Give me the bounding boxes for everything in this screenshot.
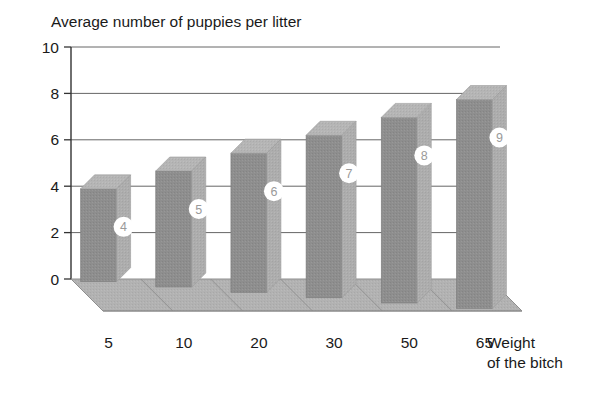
bar-front-face: [156, 171, 192, 287]
badge-value: 5: [195, 203, 202, 217]
value-badge: 9: [489, 128, 509, 148]
bar-65: [456, 86, 506, 309]
y-tick-label: 10: [42, 39, 60, 56]
x-tick-label: 30: [325, 334, 343, 351]
gridlines: [71, 47, 500, 233]
y-tick-label: 2: [50, 224, 59, 241]
bar-side-face: [417, 103, 431, 303]
value-badge: 6: [264, 181, 284, 201]
y-tick-label: 0: [50, 271, 59, 288]
bar-front-face: [231, 153, 267, 292]
bar-side-face: [192, 157, 206, 287]
x-tick-label: 50: [401, 334, 419, 351]
y-axis-ticks: 0246810: [42, 39, 71, 288]
bar-front-face: [381, 117, 417, 303]
y-tick-label: 6: [50, 131, 59, 148]
bar-side-face: [492, 86, 506, 309]
badge-value: 4: [120, 220, 127, 234]
value-badge: 8: [414, 145, 434, 165]
value-badge: 4: [114, 217, 134, 237]
badge-value: 7: [346, 167, 353, 181]
bar-20: [231, 139, 281, 292]
bar-side-face: [342, 121, 356, 297]
bar-30: [306, 121, 356, 297]
value-badge: 7: [339, 163, 359, 183]
bar-chart: Average number of puppies per litter 024…: [0, 0, 593, 397]
x-axis-label-line2: of the bitch: [487, 354, 563, 371]
bar-front-face: [81, 189, 117, 282]
x-axis-label-line1: Weight: [487, 334, 536, 351]
bar-10: [156, 157, 206, 287]
bars: [81, 86, 507, 309]
badge-value: 8: [421, 149, 428, 163]
bar-front-face: [456, 100, 492, 309]
chart-container: Average number of puppies per litter 024…: [0, 0, 593, 397]
x-tick-label: 20: [250, 334, 268, 351]
y-tick-label: 8: [50, 85, 59, 102]
x-tick-label: 10: [175, 334, 193, 351]
x-tick-label: 5: [104, 334, 113, 351]
bar-50: [381, 103, 431, 303]
bar-front-face: [306, 135, 342, 297]
y-tick-label: 4: [50, 178, 59, 195]
value-badge: 5: [189, 199, 209, 219]
bar-side-face: [267, 139, 281, 292]
badge-value: 6: [270, 185, 277, 199]
chart-title: Average number of puppies per litter: [51, 13, 301, 30]
x-axis-tick-labels: 51020305065: [104, 334, 493, 351]
badge-value: 9: [496, 131, 503, 145]
